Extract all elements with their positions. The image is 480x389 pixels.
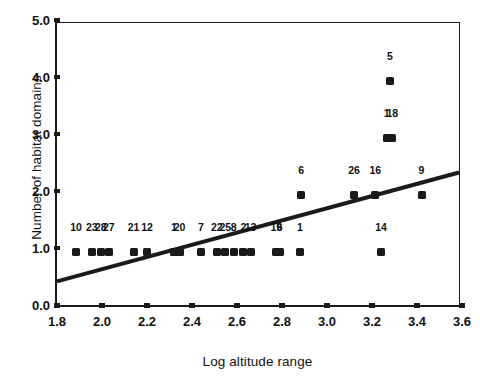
data-point-label: 8 xyxy=(231,221,237,232)
y-tick-mark xyxy=(54,189,60,193)
x-tick-mark xyxy=(414,303,420,308)
data-point xyxy=(371,191,379,199)
x-tick-mark xyxy=(144,303,150,308)
data-point-label: 25 xyxy=(219,221,231,232)
x-tick-mark xyxy=(99,303,105,308)
x-tick-label: 3.4 xyxy=(408,314,426,329)
data-point-label: 26 xyxy=(348,164,360,175)
data-point xyxy=(388,134,396,142)
y-tick-label: 0.0 xyxy=(32,298,50,313)
x-tick-label: 3.2 xyxy=(363,314,381,329)
y-tick-label: 3.0 xyxy=(32,127,50,142)
regression-line xyxy=(57,23,459,305)
y-tick-mark xyxy=(54,132,60,136)
data-point xyxy=(418,191,426,199)
data-point xyxy=(130,248,138,256)
data-point xyxy=(88,248,96,256)
data-point xyxy=(176,248,184,256)
data-point-label: 18 xyxy=(386,107,398,118)
y-tick-label: 1.0 xyxy=(32,241,50,256)
chart-figure: Number of habitat domains 0.01.02.03.04.… xyxy=(0,0,480,389)
data-point-label: 20 xyxy=(174,221,186,232)
data-point-label: 12 xyxy=(141,221,153,232)
x-tick-mark xyxy=(369,303,375,308)
data-point xyxy=(221,248,229,256)
y-tick-mark xyxy=(54,18,60,22)
x-tick-label: 3.6 xyxy=(453,314,471,329)
data-point-label: 6 xyxy=(277,221,283,232)
x-tick-mark xyxy=(324,303,330,308)
data-point-label: 10 xyxy=(70,221,82,232)
data-point xyxy=(247,248,255,256)
y-tick-mark xyxy=(54,246,60,250)
data-point-label: 5 xyxy=(387,50,393,61)
x-tick-label: 3.0 xyxy=(318,314,336,329)
data-point-label: 6 xyxy=(298,164,304,175)
data-point-label: 9 xyxy=(419,164,425,175)
y-axis-title: Number of habitat domains xyxy=(29,18,44,298)
x-tick-label: 2.4 xyxy=(183,314,201,329)
x-tick-mark xyxy=(54,303,60,308)
data-point xyxy=(143,248,151,256)
data-point-label: 14 xyxy=(375,221,387,232)
data-point-label: 7 xyxy=(198,221,204,232)
data-point xyxy=(105,248,113,256)
data-point xyxy=(197,248,205,256)
x-tick-label: 2.0 xyxy=(93,314,111,329)
x-tick-mark xyxy=(279,303,285,308)
data-point xyxy=(350,191,358,199)
x-tick-label: 2.8 xyxy=(273,314,291,329)
data-point xyxy=(72,248,80,256)
x-tick-mark xyxy=(189,303,195,308)
plot-inner: 0.01.02.03.04.05.0 1.82.02.22.42.62.83.0… xyxy=(57,23,459,305)
y-tick-label: 5.0 xyxy=(32,13,50,28)
data-point xyxy=(377,248,385,256)
plot-area: 0.01.02.03.04.05.0 1.82.02.22.42.62.83.0… xyxy=(55,22,460,307)
data-point xyxy=(97,248,105,256)
y-tick-label: 4.0 xyxy=(32,70,50,85)
data-point xyxy=(386,77,394,85)
data-point xyxy=(297,191,305,199)
x-tick-mark xyxy=(459,303,465,308)
data-point-label: 16 xyxy=(370,164,382,175)
x-tick-label: 1.8 xyxy=(48,314,66,329)
x-tick-label: 2.6 xyxy=(228,314,246,329)
x-tick-mark xyxy=(234,303,240,308)
data-point xyxy=(230,248,238,256)
x-axis-title: Log altitude range xyxy=(55,354,460,369)
data-point-label: 27 xyxy=(103,221,115,232)
x-tick-label: 2.2 xyxy=(138,314,156,329)
data-point-label: 1 xyxy=(297,221,303,232)
data-point-label: 21 xyxy=(128,221,140,232)
data-point xyxy=(296,248,304,256)
y-tick-mark xyxy=(54,75,60,79)
data-point xyxy=(276,248,284,256)
data-point xyxy=(213,248,221,256)
data-point-label: 13 xyxy=(245,221,257,232)
y-tick-label: 2.0 xyxy=(32,184,50,199)
